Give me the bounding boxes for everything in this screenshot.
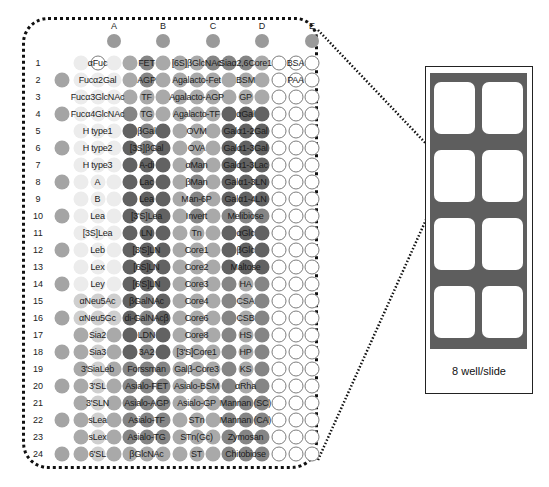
spot <box>288 175 303 190</box>
glycan-label: βGlc <box>237 245 255 255</box>
spot <box>272 413 287 428</box>
glycan-label: [3S]Lea <box>83 228 113 238</box>
glycan-label: Galα1-3Lac <box>223 160 268 170</box>
spot <box>305 362 320 377</box>
glycan-label: LN <box>141 228 152 238</box>
spot <box>107 447 122 462</box>
glycan-label: [6S]LN <box>133 262 159 272</box>
spot <box>107 243 122 258</box>
spot <box>123 73 138 88</box>
spot <box>255 362 270 377</box>
well-5 <box>434 218 475 270</box>
glycan-label: Invert <box>186 211 207 221</box>
row-marker-dot <box>55 209 70 224</box>
spot <box>222 243 237 258</box>
spot <box>156 56 171 71</box>
row-number: 5 <box>30 126 46 136</box>
spot <box>123 175 138 190</box>
glycan-label: Forssman <box>127 364 165 374</box>
glycan-label: H type2 <box>83 143 113 153</box>
glycan-label: Leb <box>90 245 104 255</box>
glycan-label: KS <box>240 364 252 374</box>
spot <box>206 141 221 156</box>
spot <box>272 260 287 275</box>
spot <box>156 192 171 207</box>
spot <box>288 209 303 224</box>
spot <box>305 294 320 309</box>
glycan-label: A-di <box>139 160 154 170</box>
spot <box>107 430 122 445</box>
slide-well-area <box>430 73 527 349</box>
glycan-label: Lac <box>140 177 154 187</box>
glycan-label: BSA <box>287 58 304 68</box>
spot <box>107 345 122 360</box>
spot <box>156 328 171 343</box>
spot <box>272 107 287 122</box>
row-number: 11 <box>30 228 46 238</box>
glycan-label: HS <box>239 330 251 340</box>
column-header-dot <box>255 34 269 48</box>
spot <box>305 277 320 292</box>
row-marker-dot <box>55 73 70 88</box>
row-number: 4 <box>30 109 46 119</box>
glycan-label: B <box>95 194 101 204</box>
spot <box>123 345 138 360</box>
row-number: 13 <box>30 262 46 272</box>
glycan-label: [6'S]LN <box>133 279 161 289</box>
glycan-label: Lea <box>139 194 153 204</box>
spot <box>255 243 270 258</box>
glycan-label: Core3 <box>185 279 209 289</box>
spot <box>107 328 122 343</box>
glycan-label: GP <box>239 92 252 102</box>
spot <box>156 158 171 173</box>
spot <box>272 175 287 190</box>
spot <box>272 158 287 173</box>
spot <box>288 141 303 156</box>
spot <box>272 73 287 88</box>
glycan-label: TF <box>141 92 152 102</box>
glycan-label: Core4 <box>185 296 209 306</box>
glycan-label: 3'SLN <box>86 398 109 408</box>
spot <box>305 243 320 258</box>
spot <box>74 175 89 190</box>
spot <box>123 328 138 343</box>
spot <box>305 124 320 139</box>
row-number: 10 <box>30 211 46 221</box>
spot <box>305 413 320 428</box>
glycan-label: Siaα2,6Core1 <box>219 58 272 68</box>
glycan-label: H type3 <box>83 160 113 170</box>
row-number: 6 <box>30 143 46 153</box>
spot <box>156 175 171 190</box>
glycan-label: Maltose <box>230 262 260 272</box>
glycan-label: Sia3 <box>89 347 106 357</box>
glycan-label: HA <box>239 279 251 289</box>
row-number: 3 <box>30 92 46 102</box>
glycan-label: Sia2 <box>89 330 106 340</box>
spot <box>305 430 320 445</box>
spot <box>255 277 270 292</box>
spot <box>288 226 303 241</box>
column-header-e: E <box>309 21 315 31</box>
glycan-label: PAA <box>287 75 304 85</box>
spot <box>305 107 320 122</box>
spot <box>305 141 320 156</box>
spot <box>206 447 221 462</box>
spot <box>222 311 237 326</box>
well-8 <box>482 286 523 338</box>
spot <box>206 175 221 190</box>
spot <box>173 413 188 428</box>
spot <box>107 175 122 190</box>
spot <box>206 209 221 224</box>
spot <box>123 226 138 241</box>
glycan-label: Asialo-BSM <box>174 381 219 391</box>
spot <box>255 73 270 88</box>
glycan-label: [3'S]Lea <box>131 211 162 221</box>
well-7 <box>434 286 475 338</box>
spot <box>173 124 188 139</box>
spot <box>272 124 287 139</box>
glycan-label: Lex <box>91 262 105 272</box>
spot <box>156 124 171 139</box>
row-marker-dot <box>55 243 70 258</box>
row-number: 9 <box>30 194 46 204</box>
spot <box>288 447 303 462</box>
